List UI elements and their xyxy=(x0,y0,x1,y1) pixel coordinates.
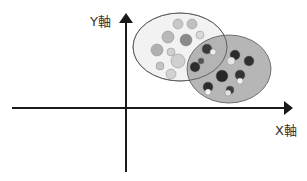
fruit-icon xyxy=(210,49,216,55)
fruit-icon xyxy=(180,34,192,46)
fruit-icon xyxy=(190,62,200,72)
fruit-icon xyxy=(156,62,164,70)
y-axis-label: Y軸 xyxy=(90,11,111,30)
x-axis-label: X軸 xyxy=(275,120,297,139)
fruit-icon xyxy=(244,56,254,66)
fruit-icon xyxy=(166,69,176,79)
fruit-icon xyxy=(167,48,175,56)
fruit-icon xyxy=(151,44,163,56)
fruit-icon xyxy=(198,58,204,64)
scatter-diagram xyxy=(0,0,307,181)
fruit-icon xyxy=(225,90,231,96)
fruit-icon xyxy=(227,57,235,65)
fruit-icon xyxy=(196,31,204,39)
fruit-icon xyxy=(162,31,174,43)
y-axis-arrow-icon xyxy=(119,13,133,23)
x-axis-arrow-icon xyxy=(284,101,293,115)
fruit-icon xyxy=(216,70,228,82)
fruit-icon xyxy=(173,19,183,29)
fruit-icon xyxy=(171,54,185,68)
fruit-icon xyxy=(187,19,197,29)
fruit-icon xyxy=(237,78,243,84)
fruit-icon xyxy=(205,89,211,95)
